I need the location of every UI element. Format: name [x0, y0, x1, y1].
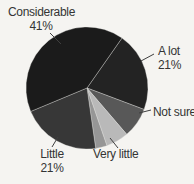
a-lot-label-text: A lot — [158, 45, 181, 59]
a-lot-pct-text: 21% — [158, 59, 181, 73]
not-sure-label-text: Not sure — [153, 106, 194, 120]
little-label: Little 21% — [38, 148, 66, 175]
considerable-pct-text: 41% — [8, 20, 74, 34]
little-label-text: Little — [38, 148, 66, 162]
pie-chart-figure: Considerable 41% A lot 21% Not sure Very… — [0, 0, 194, 184]
considerable-label-text: Considerable — [8, 6, 74, 20]
pie-slices-group — [26, 27, 148, 149]
not-sure-label: Not sure — [153, 106, 194, 120]
very-little-label-text: Very little — [93, 148, 138, 162]
a-lot-label: A lot 21% — [158, 45, 181, 72]
very-little-label: Very little — [93, 148, 138, 162]
considerable-label: Considerable 41% — [8, 6, 74, 33]
a-lot-leader-line — [141, 54, 154, 61]
little-pct-text: 21% — [38, 162, 66, 176]
